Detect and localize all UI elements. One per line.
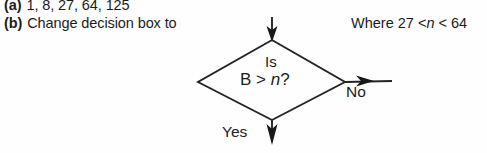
decision-condition-suffix: ? [280, 70, 289, 89]
page-canvas: (a)1, 8, 27, 64, 125 (b)Change decision … [0, 0, 487, 153]
yes-branch-arrow-icon [267, 120, 278, 145]
no-branch-label: No [346, 83, 366, 101]
yes-branch-label: Yes [222, 123, 247, 141]
decision-condition-prefix: B > [240, 70, 266, 89]
decision-condition-variable: n [271, 70, 280, 89]
decision-text-line-1: Is [265, 53, 277, 70]
decision-text-line-2: B > n? [240, 70, 290, 90]
input-arrow-icon [267, 17, 278, 42]
